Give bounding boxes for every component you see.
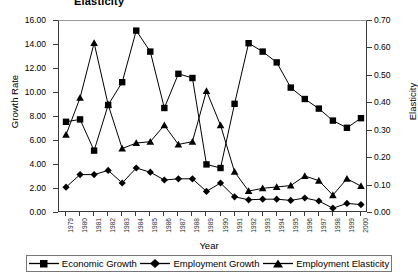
y-axis-tick-label-right: 0.40 [374, 98, 416, 107]
legend-label: Economic Growth [62, 259, 137, 269]
diamond-data-marker [91, 171, 98, 178]
y-axis-tick-label-left: 12.00 [2, 64, 46, 73]
square-data-marker [133, 27, 139, 33]
triangle-data-marker [301, 172, 309, 179]
square-data-marker [259, 48, 265, 54]
y-axis-tick-label-left: 0.00 [2, 208, 46, 217]
x-axis-tick-label: 1983 [124, 218, 131, 233]
square-data-marker [231, 101, 237, 107]
square-data-marker [203, 161, 209, 167]
square-data-marker [91, 147, 97, 153]
diamond-data-marker [273, 196, 280, 203]
triangle-data-marker [118, 145, 126, 152]
y-axis-tick-label-left: 10.00 [2, 88, 46, 97]
legend-item: Employment Elasticity [263, 258, 389, 269]
y-axis-tick-label-right: 0.30 [374, 126, 416, 135]
square-data-marker [217, 165, 223, 171]
y-axis-tick-label-right: 0.10 [374, 181, 416, 190]
square-marker-icon [29, 258, 59, 269]
diamond-data-marker [315, 197, 322, 204]
plot-area [58, 20, 367, 212]
diamond-data-marker [147, 169, 154, 176]
triangle-data-marker [62, 131, 70, 138]
legend-item: Employment Growth [140, 258, 259, 269]
x-axis-tick-label: 1985 [152, 218, 159, 233]
y-axis-tick-label-left: 16.00 [2, 16, 46, 25]
square-data-marker [344, 125, 350, 131]
triangle-data-marker [357, 182, 365, 189]
diamond-data-marker [301, 194, 308, 201]
triangle-data-marker [217, 121, 225, 128]
x-axis-tick-label: 1988 [194, 218, 201, 233]
legend-label: Employment Growth [173, 259, 259, 269]
x-axis-tick-label: 1996 [307, 218, 314, 233]
triangle-data-marker [161, 121, 169, 128]
x-axis-tick-label: 1979 [68, 218, 75, 233]
square-data-marker [274, 59, 280, 65]
series-economic-growth [63, 27, 364, 171]
series-employment-elasticity [62, 39, 365, 198]
square-data-marker [288, 84, 294, 90]
triangle-data-marker [343, 175, 351, 182]
diamond-marker-icon [140, 258, 170, 269]
series-line [66, 31, 361, 168]
legend-label: Employment Elasticity [296, 259, 389, 269]
x-axis-tick-label: 1986 [166, 218, 173, 233]
legend-item: Economic Growth [29, 258, 137, 269]
diamond-data-marker [259, 196, 266, 203]
triangle-data-marker [76, 94, 84, 101]
chart-figure: Elasticity Growth Rate Elasticity Year 1… [0, 0, 418, 276]
triangle-data-marker [189, 138, 197, 145]
triangle-marker-icon [263, 258, 293, 269]
x-axis-tick-label: 1982 [110, 218, 117, 233]
x-axis-tick-label: 1991 [237, 218, 244, 233]
x-axis-tick-label: 2000 [363, 218, 370, 233]
x-axis-tick-label: 1992 [251, 218, 258, 233]
chart-legend: Economic Growth Employment Growth Employ… [26, 255, 392, 272]
diamond-data-marker [287, 197, 294, 204]
y-axis-title-left: Growth Rate [9, 62, 20, 142]
square-data-marker [245, 40, 251, 46]
diamond-data-marker [329, 205, 336, 212]
x-axis-tick-label: 1990 [223, 218, 230, 233]
y-axis-tick-label-left: 6.00 [2, 136, 46, 145]
y-axis-tick-label-left: 8.00 [2, 112, 46, 121]
diamond-data-marker [161, 176, 168, 183]
series-canvas [58, 20, 369, 214]
diamond-data-marker [357, 201, 364, 208]
x-axis-tick-label: 1984 [138, 218, 145, 233]
diamond-data-marker [175, 175, 182, 182]
x-axis-tick-label: 1981 [96, 218, 103, 233]
triangle-data-marker [203, 87, 211, 94]
x-axis-tick-label: 1993 [265, 218, 272, 233]
y-axis-tick-label-right: 0.70 [374, 16, 416, 25]
y-axis-tick-label-left: 4.00 [2, 160, 46, 169]
square-data-marker [175, 71, 181, 77]
x-axis-tick-label: 1995 [293, 218, 300, 233]
series-employment-growth [62, 164, 364, 211]
y-axis-tick-label-right: 0.50 [374, 71, 416, 80]
x-axis-tick-label: 1994 [279, 218, 286, 233]
square-data-marker [189, 75, 195, 81]
square-data-marker [147, 48, 153, 54]
y-axis-tick-label-right: 0.20 [374, 153, 416, 162]
square-data-marker [77, 116, 83, 122]
square-data-marker [330, 117, 336, 123]
y-axis-tick-label-left: 2.00 [2, 184, 46, 193]
y-axis-tick-label-left: 14.00 [2, 40, 46, 49]
square-data-marker [302, 96, 308, 102]
diamond-data-marker [343, 200, 350, 207]
square-data-marker [63, 119, 69, 125]
chart-title: Elasticity [74, 0, 124, 7]
diamond-data-marker [245, 196, 252, 203]
x-axis-tick-label: 1999 [349, 218, 356, 233]
triangle-data-marker [90, 39, 98, 46]
square-data-marker [161, 105, 167, 111]
x-axis-tick-label: 1987 [180, 218, 187, 233]
y-axis-tick-label-right: 0.00 [374, 208, 416, 217]
square-data-marker [358, 115, 364, 121]
y-axis-tick-label-right: 0.60 [374, 43, 416, 52]
x-axis-tick-label: 1989 [208, 218, 215, 233]
square-data-marker [316, 105, 322, 111]
square-data-marker [119, 79, 125, 85]
